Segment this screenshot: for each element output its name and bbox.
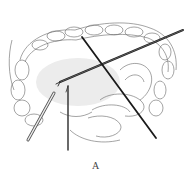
abdominal-cavity-shading: [36, 58, 120, 106]
surgical-illustration: A: [0, 0, 191, 181]
illustration-drawing: [0, 0, 191, 181]
figure-caption-label: A: [0, 160, 191, 171]
